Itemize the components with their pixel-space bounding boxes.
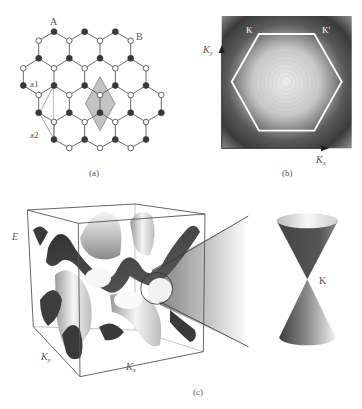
atoms-sublattice-a (20, 29, 164, 143)
vector-a2-label: a2 (30, 131, 39, 140)
panel-c-caption: (c) (193, 388, 203, 397)
dirac-cone (277, 213, 338, 345)
upper-cone (277, 221, 338, 280)
lower-cone (279, 279, 335, 345)
kx-axis-label: Kx (316, 155, 326, 167)
band-kx-label: Kx (126, 362, 136, 374)
band-ky-label: Ky (41, 352, 51, 364)
sublattice-b-label: B (136, 32, 143, 42)
ky-axis-label-sub: y (210, 49, 213, 57)
figure-canvas (0, 0, 362, 409)
bz-k-prime-label: K' (322, 26, 330, 35)
bz-k-label: K (246, 26, 253, 35)
band-ky-label-base: K (41, 351, 48, 362)
sublattice-a-label: A (50, 17, 57, 27)
bz-density-map (222, 16, 352, 148)
ky-axis-label: Ky (203, 45, 213, 57)
panel-b-caption: (b) (282, 169, 293, 178)
panel-a-caption: (a) (89, 169, 99, 178)
band-kx-label-sub: x (133, 366, 136, 374)
band-kx-label-base: K (126, 361, 133, 372)
kx-axis-label-base: K (316, 154, 323, 165)
band-ky-label-sub: y (48, 356, 51, 364)
lattice-bonds (23, 32, 161, 148)
ky-axis-label-base: K (203, 44, 210, 55)
energy-axis-label: E (12, 232, 18, 242)
panel-c-band-structure (27, 204, 338, 377)
dirac-cone-k-label: K (319, 276, 326, 286)
panel-a-lattice (20, 29, 164, 151)
vector-a1-label: a1 (30, 80, 39, 89)
panel-b-brillouin-zone (219, 16, 352, 151)
upper-cone-rim (277, 213, 338, 228)
kx-axis-label-sub: x (323, 159, 326, 167)
